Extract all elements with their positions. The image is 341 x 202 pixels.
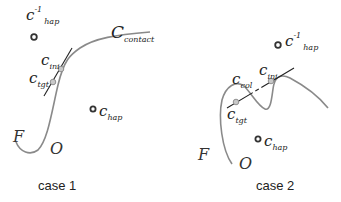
case1-c-tgt-point — [50, 79, 56, 85]
case1-label-O: O — [50, 139, 63, 158]
case1-label-c-tgt: ctgt — [29, 70, 49, 89]
case1-contact-curve — [16, 32, 150, 153]
case2-label-c-hap-inv: c-1hap — [285, 32, 318, 52]
case2-label-c-col: ccol — [232, 71, 252, 90]
case2-label-c-tgt: ctgt — [227, 106, 247, 125]
case1-label-c-contact: Ccontact — [111, 24, 154, 44]
case1-c-hap-inv-point — [31, 34, 37, 40]
case2-label-F: F — [198, 145, 209, 164]
case1-caption: case 1 — [38, 178, 76, 193]
case2-caption: case 2 — [256, 178, 294, 193]
case1-label-c-hap-inv: c-1hap — [26, 6, 59, 26]
diagram-svg — [0, 0, 341, 202]
case1-label-c-hap: chap — [99, 103, 122, 122]
case1-label-F: F — [13, 127, 24, 146]
case2-label-O: O — [239, 154, 252, 173]
case1-c-hap-point — [90, 106, 95, 111]
case2-c-tgt-point — [233, 99, 239, 105]
case2-c-hap-inv-point — [275, 42, 281, 48]
case1-label-c-ini: cini — [41, 52, 60, 71]
case2-c-hap-point — [255, 136, 260, 141]
case2-label-c-ini: cini — [259, 62, 278, 81]
diagram-canvas: c-1hap Ccontact cini ctgt chap F O case … — [0, 0, 341, 202]
case2-label-c-hap: chap — [264, 133, 287, 152]
